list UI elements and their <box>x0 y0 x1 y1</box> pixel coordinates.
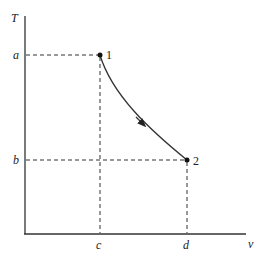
y-axis-label: T <box>11 11 19 25</box>
tick-b: b <box>13 153 19 167</box>
guide-lines <box>26 55 187 233</box>
tick-c: c <box>96 238 102 252</box>
state-point-1 <box>98 53 103 58</box>
process-curve <box>100 55 187 160</box>
state-label-2: 2 <box>193 154 199 168</box>
t-v-diagram: T v a b c d 1 2 <box>0 0 264 259</box>
state-point-2 <box>185 158 190 163</box>
state-label-1: 1 <box>106 48 112 62</box>
tick-a: a <box>13 48 19 62</box>
x-axis-label: v <box>248 237 254 251</box>
tick-d: d <box>183 238 190 252</box>
